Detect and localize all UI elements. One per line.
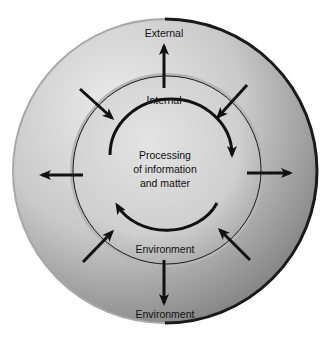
system-diagram: External Internal Processing of informat…	[0, 0, 329, 339]
external-label: External	[145, 27, 184, 39]
outer-environment-label: Environment	[136, 308, 195, 320]
internal-label: Internal	[146, 94, 181, 106]
center-line-3: and matter	[140, 177, 191, 189]
center-line-2: of information	[133, 163, 197, 175]
inner-environment-label: Environment	[136, 243, 195, 255]
center-line-1: Processing	[139, 149, 191, 161]
